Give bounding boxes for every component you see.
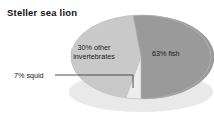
slice-label-other-invertebrates-line2: invertebrates (62, 52, 126, 61)
slice-label-squid: 7% squid (14, 71, 44, 80)
pie-chart-figure: Steller sea lion (0, 0, 214, 120)
slice-label-other-invertebrates: 30% other invertebrates (62, 43, 126, 61)
slice-label-fish: 63% fish (152, 49, 180, 58)
slice-label-other-invertebrates-line1: 30% other (62, 43, 126, 52)
